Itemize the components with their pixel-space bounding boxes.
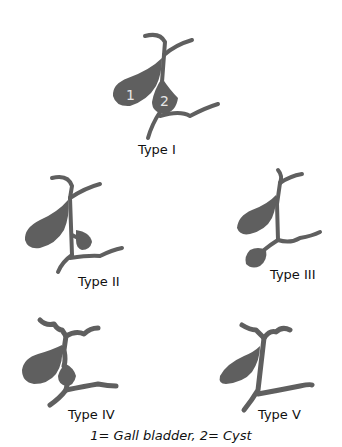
choledochal-cyst-diagram: 1 2 [0,0,342,447]
label-number-2: 2 [160,93,169,109]
type-1-figure [145,35,218,138]
cyst-shape [58,364,76,386]
type-4-label: Type IV [68,407,115,422]
type-5-label: Type V [258,407,301,422]
type-2-label: Type II [78,274,120,289]
legend: 1= Gall bladder, 2= Cyst [0,428,342,443]
gall-bladder-shape [25,200,69,248]
gall-bladder-shape [237,195,276,234]
gall-bladder-shape [22,345,62,384]
label-number-1: 1 [126,87,135,103]
type-1-label: Type I [138,142,176,157]
cyst-shape [246,248,267,268]
cyst-shape [76,230,92,250]
gall-bladder-shape [220,346,260,384]
type-3-label: Type III [270,267,316,282]
